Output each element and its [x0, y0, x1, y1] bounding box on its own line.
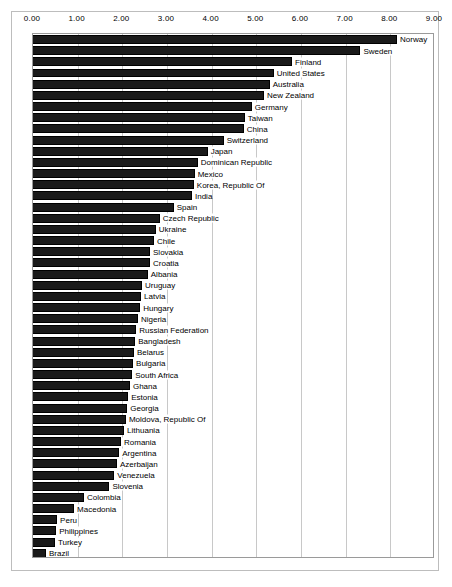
bar-row[interactable]: Azerbaijan — [33, 459, 433, 468]
bar-row[interactable]: Belarus — [33, 348, 433, 357]
bar[interactable] — [33, 493, 84, 502]
bar-row[interactable]: Bangladesh — [33, 337, 433, 346]
bar-row[interactable]: Norway — [33, 35, 433, 44]
bar-row[interactable]: Uruguay — [33, 281, 433, 290]
bar-category-label: Azerbaijan — [118, 459, 158, 468]
bar[interactable] — [33, 292, 141, 301]
bar[interactable] — [33, 169, 195, 178]
bar[interactable] — [33, 426, 124, 435]
bar-row[interactable]: Moldova, Republic Of — [33, 415, 433, 424]
bar-row[interactable]: Spain — [33, 203, 433, 212]
bar[interactable] — [33, 359, 133, 368]
bar-row[interactable]: Brazil — [33, 549, 433, 558]
bar[interactable] — [33, 191, 192, 200]
bar[interactable] — [33, 482, 109, 491]
bar-row[interactable]: Japan — [33, 147, 433, 156]
bar-row[interactable]: Argentina — [33, 448, 433, 457]
bar[interactable] — [33, 136, 224, 145]
bar-row[interactable]: Venezuela — [33, 471, 433, 480]
bar-row[interactable]: Taiwan — [33, 113, 433, 122]
bar[interactable] — [33, 370, 132, 379]
bar-category-label: Taiwan — [246, 113, 273, 122]
bar-row[interactable]: New Zealand — [33, 91, 433, 100]
bar-row[interactable]: Peru — [33, 515, 433, 524]
bar[interactable] — [33, 57, 292, 66]
bar[interactable] — [33, 270, 148, 279]
bar[interactable] — [33, 515, 57, 524]
bar-row[interactable]: Finland — [33, 57, 433, 66]
bar-row[interactable]: Philippines — [33, 526, 433, 535]
bar[interactable] — [33, 303, 140, 312]
bar[interactable] — [33, 549, 46, 558]
bar-row[interactable]: India — [33, 191, 433, 200]
bar[interactable] — [33, 281, 142, 290]
bar[interactable] — [33, 203, 174, 212]
bar[interactable] — [33, 504, 74, 513]
bar[interactable] — [33, 102, 252, 111]
bar-row[interactable]: Romania — [33, 437, 433, 446]
bar[interactable] — [33, 46, 360, 55]
bar-row[interactable]: Bulgaria — [33, 359, 433, 368]
bar-category-label: Bulgaria — [134, 359, 165, 368]
bar-row[interactable]: Chile — [33, 236, 433, 245]
bar[interactable] — [33, 80, 270, 89]
bar-row[interactable]: United States — [33, 69, 433, 78]
bar[interactable] — [33, 91, 264, 100]
bar-row[interactable]: Korea, Republic Of — [33, 180, 433, 189]
bar[interactable] — [33, 314, 138, 323]
bar[interactable] — [33, 392, 128, 401]
bar-row[interactable]: Mexico — [33, 169, 433, 178]
bar-row[interactable]: Latvia — [33, 292, 433, 301]
bar[interactable] — [33, 258, 150, 267]
bar-row[interactable]: Ukraine — [33, 225, 433, 234]
bar-row[interactable]: Georgia — [33, 404, 433, 413]
bar[interactable] — [33, 381, 130, 390]
bar[interactable] — [33, 147, 208, 156]
bar[interactable] — [33, 158, 198, 167]
bar-row[interactable]: Croatia — [33, 258, 433, 267]
bar[interactable] — [33, 459, 117, 468]
bar-row[interactable]: Macedonia — [33, 504, 433, 513]
bar-row[interactable]: Dominican Republic — [33, 158, 433, 167]
bar-row[interactable]: Nigeria — [33, 314, 433, 323]
bar[interactable] — [33, 180, 194, 189]
bar[interactable] — [33, 69, 274, 78]
bar[interactable] — [33, 325, 136, 334]
bar[interactable] — [33, 247, 150, 256]
bar-row[interactable]: Slovenia — [33, 482, 433, 491]
bar-row[interactable]: Slovakia — [33, 247, 433, 256]
bar-row[interactable]: Ghana — [33, 381, 433, 390]
bar-row[interactable]: Turkey — [33, 538, 433, 547]
bar[interactable] — [33, 124, 244, 133]
bar-row[interactable]: China — [33, 124, 433, 133]
bar[interactable] — [33, 538, 55, 547]
bar-row[interactable]: Australia — [33, 80, 433, 89]
bar-row[interactable]: Russian Federation — [33, 325, 433, 334]
bar-row[interactable]: Estonia — [33, 392, 433, 401]
bar-row[interactable]: Germany — [33, 102, 433, 111]
bar[interactable] — [33, 526, 56, 535]
bar-row[interactable]: Albania — [33, 270, 433, 279]
x-axis-tick-0: 0.00 — [24, 14, 40, 23]
bar[interactable] — [33, 471, 114, 480]
bar[interactable] — [33, 236, 154, 245]
bar-category-label: Philippines — [57, 526, 98, 535]
bar[interactable] — [33, 348, 134, 357]
bar-row[interactable]: Switzerland — [33, 136, 433, 145]
bar[interactable] — [33, 337, 135, 346]
bar[interactable] — [33, 113, 245, 122]
bar-row[interactable]: South Africa — [33, 370, 433, 379]
bar-row[interactable]: Czech Republic — [33, 214, 433, 223]
bar[interactable] — [33, 214, 160, 223]
bar-row[interactable]: Sweden — [33, 46, 433, 55]
bar[interactable] — [33, 35, 397, 44]
bar[interactable] — [33, 437, 121, 446]
bar-row[interactable]: Hungary — [33, 303, 433, 312]
bar[interactable] — [33, 448, 119, 457]
bar-row[interactable]: Colombia — [33, 493, 433, 502]
bar[interactable] — [33, 404, 127, 413]
bar[interactable] — [33, 225, 156, 234]
bar-category-label: Belarus — [135, 348, 164, 357]
bar[interactable] — [33, 415, 126, 424]
bar-row[interactable]: Lithuania — [33, 426, 433, 435]
